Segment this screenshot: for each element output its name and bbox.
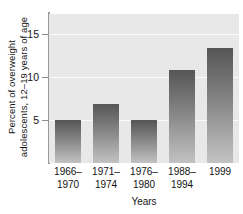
bar [93, 104, 118, 163]
gridline [49, 34, 239, 35]
bar [55, 120, 80, 163]
bar [207, 48, 232, 163]
x-tick-label: 1966– 1970 [49, 166, 87, 191]
bar [131, 120, 156, 163]
x-axis-tick-labels: 1966– 19701971– 19741976– 19801988– 1994… [49, 166, 239, 194]
bar-chart: Percent of overweight adolescents, 12–19… [0, 0, 243, 214]
x-tick-label: 1971– 1974 [87, 166, 125, 191]
y-tick-mark [42, 120, 49, 122]
bar [169, 70, 194, 163]
y-tick-mark [42, 77, 49, 79]
x-axis-title: Years [49, 196, 239, 208]
x-tick-label: 1976– 1980 [125, 166, 163, 191]
x-tick-label: 1988– 1994 [163, 166, 201, 191]
y-tick-label: 5 [0, 115, 39, 126]
x-tick-label: 1999 [201, 166, 239, 179]
y-tick-label: 15 [0, 29, 39, 40]
plot-area [49, 14, 239, 163]
y-tick-mark [42, 34, 49, 36]
y-tick-label: 10 [0, 72, 39, 83]
